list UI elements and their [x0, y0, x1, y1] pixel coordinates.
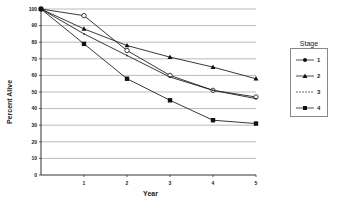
- y-tick-label: 20: [31, 139, 37, 145]
- square-marker-icon: [295, 103, 315, 113]
- circle-marker-icon: [295, 55, 315, 65]
- dot-marker-icon: [255, 98, 257, 100]
- square-marker-icon: [211, 118, 215, 122]
- x-tick-label: 1: [83, 180, 86, 186]
- y-tick-label: 50: [31, 89, 37, 95]
- y-tick-label: 10: [31, 155, 37, 161]
- dot-marker-icon: [83, 33, 85, 35]
- x-tick-label: 3: [169, 180, 172, 186]
- square-marker-icon: [39, 7, 43, 11]
- square-marker-icon: [254, 121, 258, 125]
- y-tick-label: 0: [34, 172, 37, 178]
- y-tick-label: 30: [31, 122, 37, 128]
- dot-marker-icon: [212, 89, 214, 91]
- x-axis-title: Year: [143, 190, 158, 197]
- line-chart: 010203040506070809010012345YearPercent A…: [0, 0, 338, 208]
- square-marker-icon: [82, 42, 86, 46]
- dash-marker-icon: [295, 87, 315, 97]
- circle-marker-icon: [125, 48, 129, 52]
- legend-item-stage-2: 2: [295, 71, 325, 81]
- dot-marker-icon: [169, 76, 171, 78]
- square-marker-icon: [125, 77, 129, 81]
- series-line-stage-3: [41, 9, 256, 99]
- legend-item-stage-3: 3: [295, 87, 325, 97]
- legend: 1 2 3 4: [290, 48, 328, 117]
- x-tick-label: 5: [255, 180, 258, 186]
- y-tick-label: 100: [29, 6, 38, 12]
- y-tick-label: 40: [31, 105, 37, 111]
- series-line-stage-1: [41, 9, 256, 97]
- y-tick-label: 60: [31, 72, 37, 78]
- circle-marker-icon: [82, 13, 86, 17]
- square-marker-icon: [168, 98, 172, 102]
- legend-item-stage-1: 1: [295, 55, 325, 65]
- y-axis-title: Percent Alive: [6, 80, 13, 124]
- y-tick-label: 70: [31, 56, 37, 62]
- legend-title: Stage: [290, 40, 328, 47]
- legend-item-stage-4: 4: [295, 103, 325, 113]
- x-tick-label: 4: [212, 180, 215, 186]
- triangle-marker-icon: [295, 71, 315, 81]
- y-tick-label: 80: [31, 39, 37, 45]
- x-tick-label: 2: [126, 180, 129, 186]
- dot-marker-icon: [126, 55, 128, 57]
- series-line-stage-2: [41, 9, 256, 79]
- y-tick-label: 90: [31, 22, 37, 28]
